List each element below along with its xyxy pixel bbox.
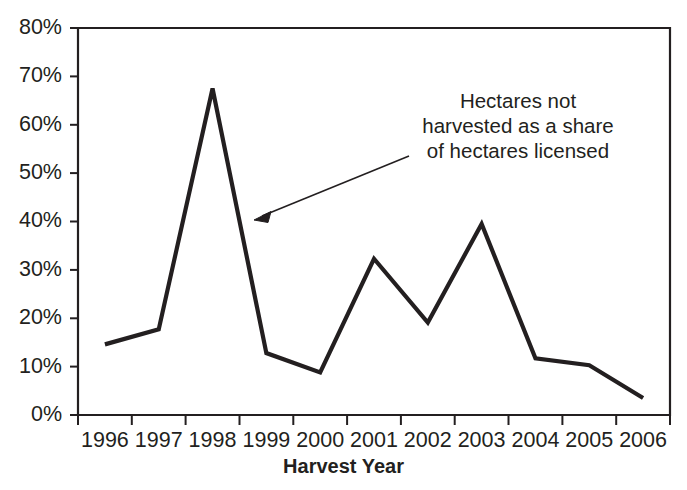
x-tick-label-1999: 1999 <box>240 430 294 452</box>
x-axis-title: Harvest Year <box>0 455 687 478</box>
x-tick-label-2001: 2001 <box>347 430 401 452</box>
y-axis-ticks <box>70 28 78 415</box>
y-tick-label-0: 0% <box>0 404 62 426</box>
series-annotation-label: Hectares not harvested as a share of hec… <box>398 88 638 163</box>
x-tick-label-2005: 2005 <box>562 430 616 452</box>
x-tick-label-2006: 2006 <box>616 430 670 452</box>
x-tick-label-2002: 2002 <box>401 430 455 452</box>
x-tick-label-2000: 2000 <box>293 430 347 452</box>
x-tick-label-1996: 1996 <box>78 430 132 452</box>
y-tick-label-40: 40% <box>0 210 62 232</box>
x-tick-label-1998: 1998 <box>186 430 240 452</box>
x-tick-label-2003: 2003 <box>455 430 509 452</box>
y-tick-label-50: 50% <box>0 162 62 184</box>
y-tick-label-80: 80% <box>0 17 62 39</box>
x-tick-label-2004: 2004 <box>509 430 563 452</box>
x-tick-label-1997: 1997 <box>132 430 186 452</box>
y-tick-label-30: 30% <box>0 259 62 281</box>
y-tick-label-70: 70% <box>0 65 62 87</box>
y-tick-label-20: 20% <box>0 307 62 329</box>
y-tick-label-10: 10% <box>0 356 62 378</box>
line-chart-canvas <box>0 0 687 490</box>
plot-frame <box>78 28 670 415</box>
annotation-line-1: Hectares not <box>398 88 638 113</box>
annotation-arrow <box>254 156 409 223</box>
chart-figure: 80% 70% 60% 50% 40% 30% 20% 10% 0% 1996 … <box>0 0 687 490</box>
annotation-line-3: of hectares licensed <box>398 138 638 163</box>
annotation-line-2: harvested as a share <box>398 113 638 138</box>
x-axis-ticks <box>78 415 670 425</box>
y-tick-label-60: 60% <box>0 114 62 136</box>
